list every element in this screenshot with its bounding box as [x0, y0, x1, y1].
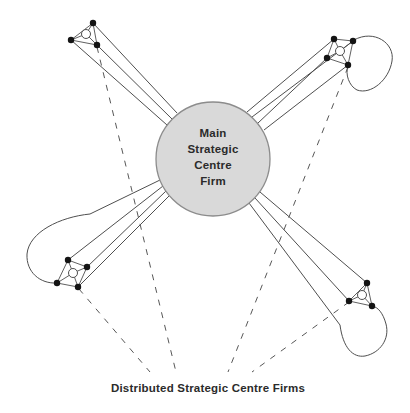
network-diagram: Main Strategic Centre Firm Distributed S… [0, 0, 410, 413]
loop-bottom-right [249, 203, 387, 356]
hub-node [69, 269, 78, 278]
cluster-top-right [324, 36, 356, 68]
cluster-top-left [68, 20, 100, 48]
network-node-dot [65, 257, 71, 263]
network-node-dot [324, 55, 330, 61]
network-node-dot [54, 280, 60, 286]
hub-node [358, 291, 367, 300]
link-line [71, 40, 167, 125]
network-node-dot [331, 36, 337, 42]
network-node-dot [90, 20, 96, 26]
network-node-dot [75, 284, 81, 290]
link-line [93, 23, 177, 113]
cluster-bottom-left [54, 257, 90, 290]
main-firm-label-line-2: Strategic [187, 143, 238, 155]
network-node-dot [369, 303, 375, 309]
network-node-dot [345, 62, 351, 68]
loop-bottom-left [27, 180, 160, 283]
diagram-canvas: Main Strategic Centre Firm Distributed S… [0, 0, 410, 413]
network-node-dot [350, 38, 356, 44]
links-centre-to-bottom-left [27, 180, 169, 287]
loop-top-right [347, 36, 392, 91]
network-node-dot [346, 298, 352, 304]
link-line [97, 45, 172, 119]
dashed-link-top-left [97, 47, 176, 372]
dashed-link-bottom-left [79, 289, 150, 372]
link-line [87, 191, 166, 267]
main-firm-label-line-4: Firm [200, 175, 226, 187]
network-node-dot [84, 264, 90, 270]
main-firm-label-line-3: Centre [194, 159, 232, 171]
network-node-dot [364, 280, 370, 286]
links-centre-to-bottom-right [249, 192, 387, 356]
main-strategic-centre-firm: Main Strategic Centre Firm [156, 102, 270, 216]
main-firm-label-line-1: Main [200, 127, 227, 139]
link-line [258, 58, 327, 123]
link-line [247, 39, 334, 112]
link-line [260, 192, 367, 283]
link-line [255, 198, 349, 301]
network-node-dot [68, 37, 74, 43]
dashed-link-bottom-right [252, 302, 349, 372]
network-node-dot [94, 42, 100, 48]
hub-node [336, 47, 345, 56]
link-line [264, 65, 348, 130]
hub-node [82, 30, 91, 39]
distributed-firms-label: Distributed Strategic Centre Firms [111, 382, 305, 394]
cluster-bottom-right [346, 280, 375, 309]
